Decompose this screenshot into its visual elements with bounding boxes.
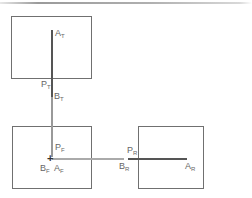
label-b-top: BT xyxy=(54,92,64,104)
point-marker: + xyxy=(47,153,53,164)
label-p-right: PR xyxy=(127,146,137,158)
top-border-line xyxy=(0,2,252,4)
label-p-front: PF xyxy=(55,143,65,155)
line-ab-right-view xyxy=(128,158,187,160)
label-b-front: BF xyxy=(40,164,50,176)
projection-line-vertical xyxy=(51,97,53,157)
label-p-top: PT xyxy=(41,80,51,92)
label-b-right: BR xyxy=(119,162,129,174)
line-ab-top-view xyxy=(51,30,53,97)
label-a-front: AF xyxy=(54,164,64,176)
projection-line-horizontal xyxy=(52,158,124,160)
label-a-right: AR xyxy=(185,162,195,174)
label-a-top: AT xyxy=(55,29,65,41)
